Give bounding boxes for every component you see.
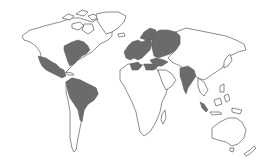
region-indonesia — [210, 94, 242, 115]
world-map-svg — [0, 0, 269, 166]
region-india — [180, 66, 196, 94]
region-new-zealand — [244, 146, 256, 156]
world-map — [0, 0, 269, 166]
region-western-europe — [124, 38, 152, 60]
region-madagascar — [161, 110, 166, 124]
region-philippines — [220, 84, 224, 92]
region-caribbean — [66, 72, 74, 75]
region-tasmania — [230, 148, 234, 152]
region-iceland — [118, 33, 125, 37]
region-asia — [168, 28, 246, 80]
region-eastern-united-states — [64, 40, 90, 66]
region-sumatra — [200, 102, 208, 112]
region-southeast-asia — [198, 78, 208, 96]
region-australia — [212, 118, 246, 146]
